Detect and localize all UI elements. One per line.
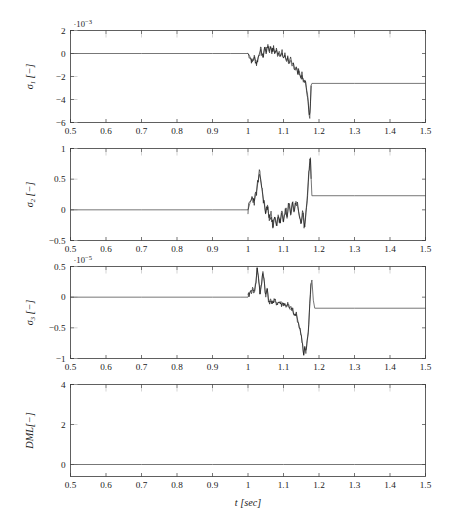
panel-sigma3-yticklabel: 0.5 <box>54 262 66 272</box>
panel-sigma3-data-line <box>71 268 426 356</box>
panel-sigma2-xticklabel: 0.5 <box>65 244 77 254</box>
panel-sigma3: 0.50.60.70.80.911.11.21.31.41.50.50−0.5−… <box>24 254 432 372</box>
panel-sigma1-yticklabel: 0 <box>61 49 66 59</box>
panel-dml-xticklabel: 1 <box>246 480 251 490</box>
panel-dml-xticklabel: 1.4 <box>384 480 396 490</box>
panel-sigma3-xticklabel: 1.3 <box>349 362 361 372</box>
panel-dml-xticklabel: 0.5 <box>65 480 77 490</box>
panel-sigma2-xticklabel: 0.6 <box>100 244 112 254</box>
panel-sigma3-multiplier: ·10−5 <box>74 254 93 265</box>
panel-dml-xticklabel: 1.2 <box>313 480 325 490</box>
panel-sigma2-yticklabel: 0.5 <box>54 174 66 184</box>
panel-dml-xticklabel: 1.5 <box>420 480 432 490</box>
panel-sigma2-xticklabel: 0.9 <box>207 244 219 254</box>
panel-sigma1-xticklabel: 1.2 <box>313 126 325 136</box>
panel-dml-xticklabel: 1.1 <box>278 480 290 490</box>
panel-sigma3-yticklabel: −0.5 <box>49 323 66 333</box>
panel-sigma3-xticklabel: 0.8 <box>171 362 183 372</box>
panel-dml-ylabel: DML[−] <box>24 412 35 449</box>
panel-sigma2-xticklabel: 0.7 <box>136 244 148 254</box>
panel-sigma1: 0.50.60.70.80.911.11.21.31.41.520−2−4−6·… <box>24 18 432 136</box>
panel-sigma3-data-noise <box>248 268 311 355</box>
panel-sigma3-xticklabel: 1.4 <box>384 362 396 372</box>
panel-dml-xticklabel: 0.6 <box>100 480 112 490</box>
panel-sigma3-yticklabel: 0 <box>61 292 66 302</box>
panel-dml: 0.50.60.70.80.911.11.21.31.41.5420DML[−] <box>24 380 432 490</box>
panel-dml-yticklabel: 2 <box>61 420 66 430</box>
panel-sigma3-xticklabel: 1.2 <box>313 362 325 372</box>
panel-sigma3-xticklabel: 1.1 <box>278 362 290 372</box>
multi-panel-plot: 0.50.60.70.80.911.11.21.31.41.520−2−4−6·… <box>0 0 454 531</box>
panel-sigma2-ylabel: σ2 [−] <box>24 182 36 208</box>
panel-sigma1-yticklabel: −4 <box>56 95 66 105</box>
panel-sigma1-xticklabel: 1.4 <box>384 126 396 136</box>
figure-container: 0.50.60.70.80.911.11.21.31.41.520−2−4−6·… <box>0 0 454 531</box>
panel-sigma1-frame <box>71 31 426 123</box>
panel-sigma1-data-line <box>71 44 426 118</box>
panel-sigma2-xticklabel: 1.4 <box>384 244 396 254</box>
panel-dml-xticklabel: 0.8 <box>171 480 183 490</box>
panel-sigma3-xticklabel: 0.5 <box>65 362 77 372</box>
panel-sigma1-xticklabel: 0.7 <box>136 126 148 136</box>
panel-sigma1-xticklabel: 1 <box>246 126 251 136</box>
panel-sigma3-xticklabel: 1.5 <box>420 362 432 372</box>
panel-dml-xticklabel: 0.7 <box>136 480 148 490</box>
panel-sigma1-xticklabel: 0.8 <box>171 126 183 136</box>
panel-sigma2-data-noise <box>248 159 311 228</box>
panel-sigma3-xticklabel: 0.6 <box>100 362 112 372</box>
panel-sigma2-xticklabel: 1.2 <box>313 244 325 254</box>
panel-sigma2-xticklabel: 0.8 <box>171 244 183 254</box>
panel-sigma1-xticklabel: 1.5 <box>420 126 432 136</box>
panel-sigma3-xticklabel: 0.7 <box>136 362 148 372</box>
panel-dml-yticklabel: 4 <box>61 380 66 390</box>
panel-sigma2: 0.50.60.70.80.911.11.21.31.41.510.50−0.5… <box>24 144 432 254</box>
panel-sigma1-xticklabel: 0.5 <box>65 126 77 136</box>
panel-sigma3-xticklabel: 1 <box>246 362 251 372</box>
panel-sigma1-xticklabel: 1.3 <box>349 126 361 136</box>
panel-sigma1-yticklabel: −2 <box>56 72 66 82</box>
panel-sigma1-data-noise <box>248 46 311 115</box>
panel-sigma1-xticklabel: 0.9 <box>207 126 219 136</box>
panel-sigma2-frame <box>71 149 426 241</box>
panel-sigma2-xticklabel: 1 <box>246 244 251 254</box>
panel-sigma1-multiplier: ·10−3 <box>74 18 93 29</box>
panel-sigma2-xticklabel: 1.3 <box>349 244 361 254</box>
panel-sigma1-xticklabel: 1.1 <box>278 126 290 136</box>
panel-sigma3-yticklabel: −1 <box>56 354 66 364</box>
panel-dml-yticklabel: 0 <box>61 460 66 470</box>
panel-sigma1-yticklabel: −6 <box>56 118 66 128</box>
panel-sigma1-ylabel: σ1 [−] <box>24 64 36 90</box>
x-axis-label: t [sec] <box>235 497 261 508</box>
panel-sigma3-ylabel: σ3 [−] <box>24 300 36 326</box>
panel-sigma2-yticklabel: 0 <box>61 205 66 215</box>
panel-sigma3-xticklabel: 0.9 <box>207 362 219 372</box>
panel-sigma2-xticklabel: 1.1 <box>278 244 290 254</box>
panel-dml-xticklabel: 1.3 <box>349 480 361 490</box>
panel-dml-xticklabel: 0.9 <box>207 480 219 490</box>
panel-sigma1-yticklabel: 2 <box>61 26 66 36</box>
panel-sigma2-yticklabel: 1 <box>61 144 66 154</box>
panel-sigma2-xticklabel: 1.5 <box>420 244 432 254</box>
panel-sigma1-xticklabel: 0.6 <box>100 126 112 136</box>
panel-sigma2-data-line <box>71 158 426 229</box>
panel-sigma3-frame <box>71 267 426 359</box>
panel-dml-frame <box>71 385 426 477</box>
panel-sigma2-yticklabel: −0.5 <box>49 236 66 246</box>
